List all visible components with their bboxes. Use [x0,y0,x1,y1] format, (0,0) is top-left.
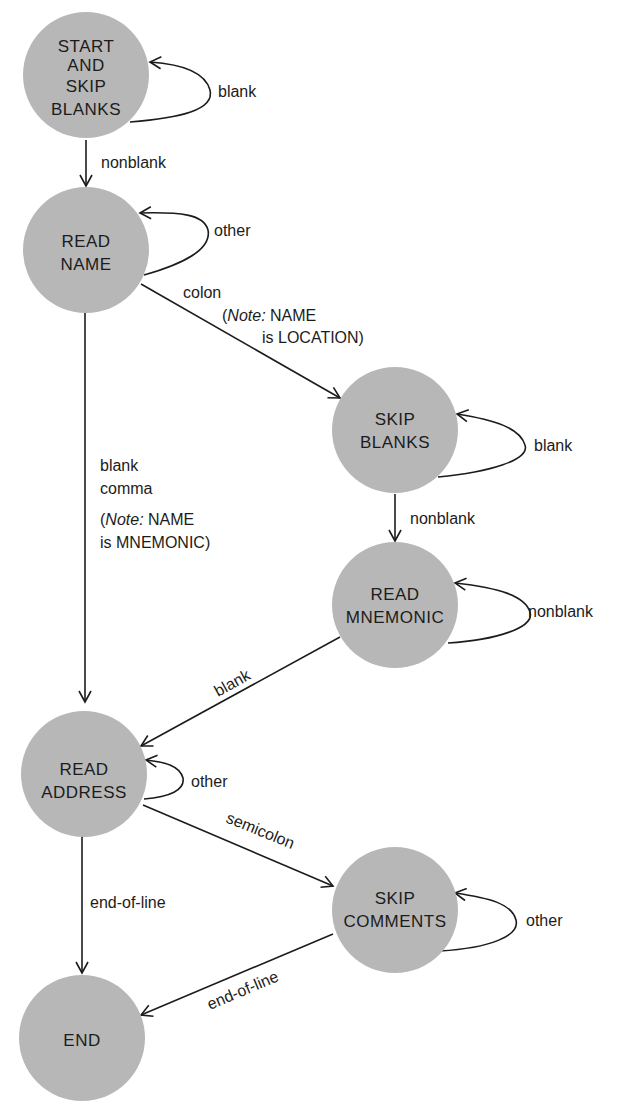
edge-label: end-of-line [205,968,281,1013]
edge-skip-comments-self-other: other [440,893,563,951]
edge-read-name-self-other: other [140,213,251,275]
edge-start-self-blank: blank [130,62,257,122]
edge-label-line2: comma [100,480,153,497]
edge-label: blank [534,437,573,454]
node-skip-blanks: SKIP BLANKS [332,367,458,493]
node-end: END [19,975,145,1101]
edge-label: nonblank [101,154,167,171]
node-read-mnemonic: READ MNEMONIC [332,542,458,668]
edge-note-line2: is LOCATION) [262,329,364,346]
edge-read-address-to-end: end-of-line [82,828,166,973]
edge-read-mnemonic-to-read-address: blank [141,637,340,746]
node-label-line: NAME [60,255,111,274]
note-text: NAME [270,307,316,324]
edge-label: blank [218,83,257,100]
node-label-line: COMMENTS [343,912,446,931]
edge-label-line1: blank [100,457,139,474]
note-prefix: Note: [105,511,143,528]
edge-note-line2: is MNEMONIC) [100,534,210,551]
edge-skip-blanks-to-read-mnemonic: nonblank [395,494,476,541]
edge-skip-comments-to-end: end-of-line [141,934,333,1015]
edge-label: other [214,222,251,239]
node-read-address: READ ADDRESS [21,711,147,837]
state-diagram: blank nonblank other colon (Note: NAME i… [0,0,626,1119]
node-label-line: START [58,37,115,56]
edge-read-name-to-read-address: blank comma (Note: NAME is MNEMONIC) [85,313,210,702]
edge-label: nonblank [528,603,594,620]
node-read-name: READ NAME [23,187,149,313]
edge-read-mnemonic-self-nonblank: nonblank [448,583,594,643]
node-label-line: ADDRESS [41,783,127,802]
node-label-line: SKIP [375,410,416,429]
edge-skip-blanks-self-blank: blank [438,414,573,477]
node-skip-comments: SKIP COMMENTS [332,847,458,973]
note-text: NAME [148,511,194,528]
node-label-line: MNEMONIC [346,608,444,627]
node-label-line: AND [67,56,104,75]
edge-label: colon [183,284,221,301]
edge-label: nonblank [410,510,476,527]
edge-label: end-of-line [90,894,166,911]
edge-read-address-to-skip-comments: semicolon [143,805,333,886]
edge-note: (Note: NAME [222,307,316,324]
edge-label: other [526,912,563,929]
node-label-line: BLANKS [360,433,430,452]
node-label-line: SKIP [66,77,107,96]
edge-read-name-to-skip-blanks: colon (Note: NAME is LOCATION) [141,284,364,398]
node-label-line: READ [370,585,419,604]
edge-label: blank [211,666,254,700]
note-prefix: Note: [227,307,265,324]
node-start-and-skip-blanks: START AND SKIP BLANKS [23,12,149,138]
node-label-line: READ [61,232,110,251]
edge-read-address-self-other: other [144,760,228,799]
node-label-line: BLANKS [51,100,121,119]
edge-note: (Note: NAME [100,511,194,528]
node-label-line: READ [59,760,108,779]
edge-label: semicolon [224,809,297,852]
edge-label: other [191,773,228,790]
node-label-line: SKIP [375,889,416,908]
edge-start-to-read-name: nonblank [86,140,167,186]
node-label-line: END [63,1031,100,1050]
